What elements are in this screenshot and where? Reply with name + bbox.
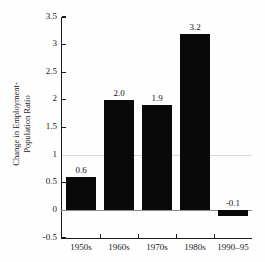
x-tick-label: 1960s: [108, 242, 130, 252]
x-tick-mark: [176, 234, 177, 238]
y-tick-mark: [62, 99, 66, 100]
y-axis-title-line1: Change in Employment-: [11, 82, 21, 166]
x-tick-mark: [214, 234, 215, 238]
plot-area: 3.532.521.510.50-0.5 0.62.01.93.2-0.1 19…: [62, 17, 252, 238]
y-tick-label: 0.5: [46, 176, 57, 186]
bar-value-label: 0.6: [75, 165, 86, 175]
x-tick-label: 1970s: [146, 242, 168, 252]
y-tick-label: 2.5: [46, 66, 57, 76]
x-tick-label: 1980s: [184, 242, 206, 252]
bar-value-label: 1.9: [151, 93, 162, 103]
y-tick-label: -0.5: [43, 232, 57, 242]
y-axis-title-line2: Population Ratio: [21, 95, 31, 152]
bar: [218, 210, 248, 216]
y-tick-label: 0: [53, 204, 58, 214]
y-tick-label: 2: [53, 93, 58, 103]
bar-chart-figure: FIGURE 1.1 Change in Employment- Populat…: [0, 0, 265, 262]
x-tick-mark: [138, 234, 139, 238]
bar: [66, 177, 96, 210]
y-axis-title: Change in Employment- Population Ratio: [10, 54, 32, 194]
y-tick-mark: [62, 16, 66, 17]
bar: [142, 105, 172, 210]
y-tick-label: 1.5: [46, 121, 57, 131]
y-tick-mark: [62, 127, 66, 128]
bar: [180, 34, 210, 211]
y-tick-label: 3.5: [46, 11, 57, 21]
x-tick-label: 1990–95: [217, 242, 249, 252]
y-tick-label: 1: [53, 149, 58, 159]
y-tick-mark: [62, 72, 66, 73]
y-tick-mark: [62, 44, 66, 45]
y-tick-mark: [62, 237, 66, 238]
bar-value-label: 3.2: [189, 22, 200, 32]
figure-title: FIGURE 1.1: [0, 0, 265, 2]
x-tick-label: 1950s: [70, 242, 92, 252]
x-axis-line: [61, 238, 252, 239]
bar: [104, 100, 134, 211]
y-tick-label: 3: [53, 38, 58, 48]
bar-value-label: 2.0: [113, 88, 124, 98]
bar-value-label: -0.1: [226, 198, 240, 208]
x-tick-mark: [100, 234, 101, 238]
